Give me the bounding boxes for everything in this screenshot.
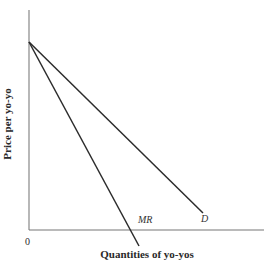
demand-curve	[29, 42, 203, 213]
x-axis-label: Quantities of yo-yos	[100, 248, 194, 260]
marginal-revenue-curve	[29, 42, 139, 246]
y-axis-label: Price per yo-yo	[1, 88, 13, 159]
mr-curve-label: MR	[138, 214, 152, 225]
chart-canvas	[0, 0, 266, 268]
origin-label: 0	[25, 236, 30, 247]
demand-curve-label: D	[201, 213, 208, 224]
